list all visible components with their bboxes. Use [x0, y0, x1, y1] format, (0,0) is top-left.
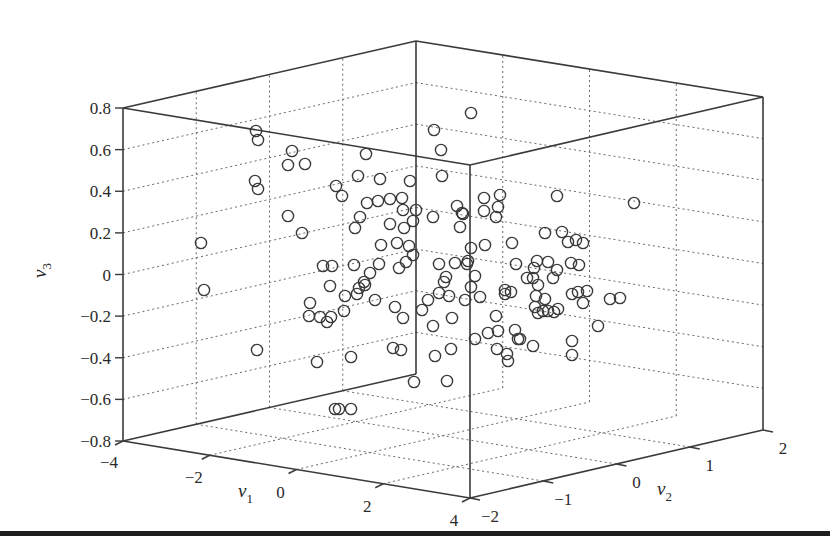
data-point	[391, 237, 402, 248]
data-point	[492, 201, 503, 212]
svg-text:−2: −2	[185, 468, 203, 487]
data-point	[577, 297, 588, 308]
tick-labels: −0.8−0.6−0.4−0.200.20.40.60.8−4−2024−2−1…	[80, 99, 787, 530]
data-point	[443, 290, 454, 301]
plot-box	[123, 41, 763, 498]
data-point	[469, 270, 480, 281]
data-point	[398, 222, 409, 233]
data-point	[492, 325, 503, 336]
data-point	[373, 258, 384, 269]
data-point	[345, 351, 356, 362]
svg-text:0: 0	[632, 473, 641, 492]
data-point	[482, 327, 493, 338]
data-point	[195, 237, 206, 248]
data-point	[348, 259, 359, 270]
svg-text:0.8: 0.8	[90, 99, 111, 118]
data-point	[427, 211, 438, 222]
data-point	[336, 190, 347, 201]
svg-text:−0.2: −0.2	[80, 307, 111, 326]
data-point	[374, 173, 385, 184]
data-point	[407, 249, 418, 260]
data-point	[286, 145, 297, 156]
data-point	[539, 227, 550, 238]
svg-text:1: 1	[706, 456, 715, 475]
data-point	[324, 280, 335, 291]
data-point	[446, 312, 457, 323]
data-point	[384, 193, 395, 204]
data-point	[251, 344, 262, 355]
svg-text:0.4: 0.4	[90, 182, 112, 201]
data-point	[393, 262, 404, 273]
data-point	[296, 227, 307, 238]
svg-text:−1: −1	[554, 490, 572, 509]
data-point	[404, 175, 415, 186]
data-point	[479, 239, 490, 250]
data-point	[384, 218, 395, 229]
data-point	[282, 159, 293, 170]
data-point	[527, 340, 538, 351]
data-point	[282, 210, 293, 221]
data-point	[354, 211, 365, 222]
data-point	[570, 234, 581, 245]
svg-text:4: 4	[450, 511, 459, 530]
data-point	[478, 192, 489, 203]
y-axis-label: v2	[657, 478, 672, 504]
data-point	[478, 205, 489, 216]
x-axis-label: v1	[238, 480, 253, 506]
svg-text:−0.4: −0.4	[80, 349, 111, 368]
data-point	[573, 259, 584, 270]
data-point	[494, 189, 505, 200]
data-point	[449, 257, 460, 268]
data-point	[565, 257, 576, 268]
data-point	[395, 344, 406, 355]
data-point	[592, 320, 603, 331]
data-point	[510, 258, 521, 269]
data-point	[435, 144, 446, 155]
data-point	[428, 124, 439, 135]
data-point	[465, 281, 476, 292]
data-point	[369, 294, 380, 305]
scatter-points	[195, 107, 639, 414]
bottom-divider-bar	[0, 531, 830, 536]
data-point	[396, 192, 407, 203]
svg-text:0.6: 0.6	[90, 141, 111, 160]
data-point	[502, 355, 513, 366]
data-point	[531, 255, 542, 266]
svg-text:−0.6: −0.6	[80, 390, 111, 409]
svg-text:0: 0	[276, 483, 285, 502]
data-point	[299, 158, 310, 169]
data-point	[375, 239, 386, 250]
data-point	[400, 256, 411, 267]
data-point	[459, 294, 470, 305]
data-point	[408, 376, 419, 387]
3d-scatter-plot: −0.8−0.6−0.4−0.200.20.40.60.8−4−2024−2−1…	[0, 0, 835, 549]
data-point	[465, 242, 476, 253]
data-point	[628, 197, 639, 208]
data-point	[441, 375, 452, 386]
data-point	[387, 342, 398, 353]
svg-text:0: 0	[103, 266, 112, 285]
data-point	[506, 237, 517, 248]
data-point	[304, 297, 315, 308]
svg-text:−0.8: −0.8	[80, 432, 111, 451]
svg-text:2: 2	[779, 439, 788, 458]
data-point	[433, 258, 444, 269]
data-point	[566, 349, 577, 360]
data-point	[566, 335, 577, 346]
svg-text:−2: −2	[481, 507, 499, 526]
data-point	[427, 320, 438, 331]
tick-marks	[115, 108, 773, 502]
data-point	[474, 291, 485, 302]
data-point	[490, 211, 501, 222]
data-point	[445, 343, 456, 354]
data-point	[198, 284, 209, 295]
svg-text:−4: −4	[100, 453, 119, 472]
data-point	[577, 237, 588, 248]
data-point	[352, 170, 363, 181]
svg-text:0.2: 0.2	[90, 224, 111, 243]
data-point	[416, 304, 427, 315]
data-point	[465, 107, 476, 118]
data-point	[490, 310, 501, 321]
data-point	[454, 221, 465, 232]
data-point	[349, 222, 360, 233]
